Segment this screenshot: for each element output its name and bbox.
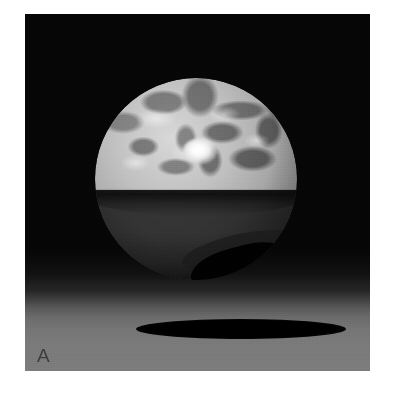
sphere-light-texture (95, 78, 297, 280)
cast-shadow-ellipse (136, 319, 346, 339)
sphere (95, 78, 297, 280)
render-panel: A (25, 14, 370, 371)
panel-label: A (37, 346, 50, 365)
figure-panel: A (0, 0, 396, 393)
